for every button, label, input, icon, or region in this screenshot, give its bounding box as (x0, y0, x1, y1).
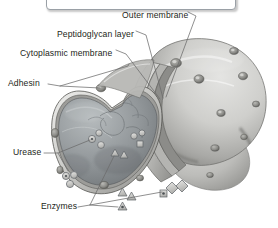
adhesin-bump (57, 166, 63, 174)
label-enzymes: Enzymes (41, 201, 77, 211)
adhesin-bump (51, 129, 58, 138)
label-peptidoglycan-layer: Peptidoglycan layer (57, 29, 134, 39)
label-cytoplasmic-membrane: Cytoplasmic membrane (20, 48, 112, 58)
adhesin-bump (230, 48, 239, 55)
adhesin-bump (241, 134, 248, 140)
adhesin-bump (211, 145, 219, 151)
bacterium-illustration (0, 0, 278, 228)
empty-callout-box[interactable] (46, 0, 236, 10)
adhesin-bump (217, 110, 225, 117)
adhesin-bump (238, 72, 247, 80)
label-outer-membrane: Outer membrane (122, 10, 188, 20)
adhesin-bump (136, 175, 143, 181)
adhesin-bump (207, 172, 214, 177)
adhesin-bump (194, 75, 204, 83)
label-urease: Urease (13, 147, 41, 157)
figure-canvas (0, 0, 278, 228)
adhesin-bump (252, 101, 259, 107)
label-adhesin: Adhesin (8, 78, 40, 88)
